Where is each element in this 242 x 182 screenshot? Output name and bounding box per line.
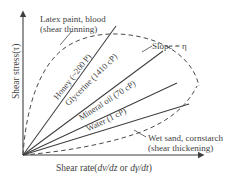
slope-label: Slope = η: [152, 41, 187, 51]
x-axis-label-prefix: Shear rate(: [56, 163, 97, 173]
shear-thinning-caption: Latex paint, blood (shear thinning): [40, 14, 106, 34]
x-axis-label-mid: or: [117, 163, 130, 173]
x-axis-label-math-2: dγ/dt: [130, 163, 149, 173]
shear-thickening-caption-line2: (shear thickening): [148, 143, 223, 153]
rheology-figure: Shear stress(τ) Shear rate(dv/dz or dγ/d…: [0, 0, 242, 182]
shear-thinning-caption-line2: (shear thinning): [40, 24, 106, 34]
leader-slope: [142, 46, 152, 52]
shear-thinning-caption-line1: Latex paint, blood: [40, 14, 106, 24]
shear-thickening-caption: Wet sand, cornstarch (shear thickening): [148, 133, 223, 153]
x-axis-label-suffix: ): [149, 163, 152, 173]
y-axis-label: Shear stress(τ): [11, 23, 22, 119]
x-axis-label-math-1: dv/dz: [97, 163, 117, 173]
shear-thickening-caption-line1: Wet sand, cornstarch: [148, 133, 223, 143]
x-axis-label: Shear rate(dv/dz or dγ/dt): [56, 163, 152, 174]
